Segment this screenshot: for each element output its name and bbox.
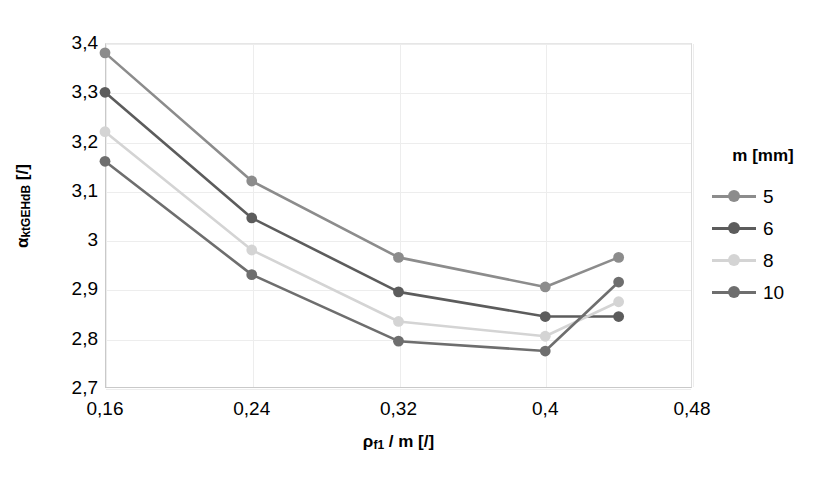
- legend-title: m [mm]: [700, 146, 826, 166]
- x-axis-title-symbol: ρ: [363, 432, 374, 451]
- data-point-10: [613, 277, 624, 288]
- series-layer: [105, 43, 692, 388]
- legend-marker-icon: [728, 190, 740, 202]
- legend-item-6[interactable]: 6: [700, 212, 826, 244]
- data-point-8: [393, 316, 404, 327]
- data-point-6: [393, 286, 404, 297]
- x-axis-title: ρf1 / m [/]: [105, 432, 692, 452]
- series-line-5: [105, 53, 619, 287]
- legend-item-5[interactable]: 5: [700, 180, 826, 212]
- gridline-horizontal: [106, 389, 691, 390]
- legend: m [mm] 56810: [700, 146, 826, 308]
- data-point-5: [393, 252, 404, 263]
- data-point-10: [540, 346, 551, 357]
- legend-key-swatch: [712, 221, 756, 235]
- y-axis-tick-label: 2,8: [38, 329, 98, 348]
- data-point-10: [393, 336, 404, 347]
- legend-item-label: 6: [763, 219, 774, 238]
- data-point-6: [613, 311, 624, 322]
- legend-item-label: 10: [763, 283, 784, 302]
- y-axis-title-unit: [/]: [13, 164, 32, 185]
- x-axis-tick-label: 0,4: [500, 398, 590, 419]
- gridline-vertical: [693, 44, 694, 387]
- legend-items: 56810: [700, 180, 826, 308]
- legend-item-8[interactable]: 8: [700, 244, 826, 276]
- y-axis-tick-label: 2,9: [38, 279, 98, 298]
- y-axis-tick-label: 3,3: [38, 82, 98, 101]
- data-point-8: [100, 126, 111, 137]
- data-point-8: [540, 331, 551, 342]
- data-point-10: [246, 269, 257, 280]
- x-axis-tick-label: 0,48: [647, 398, 737, 419]
- chart-root: 2,72,82,933,13,23,33,4 αktGEHdB [/] 0,16…: [0, 0, 834, 484]
- series-line-6: [105, 92, 619, 316]
- legend-marker-icon: [728, 254, 740, 266]
- data-point-8: [613, 296, 624, 307]
- y-axis-tick-label: 3,2: [38, 132, 98, 151]
- data-point-10: [100, 156, 111, 167]
- legend-marker-icon: [728, 222, 740, 234]
- data-point-6: [100, 87, 111, 98]
- y-axis-tick-label: 3,4: [38, 33, 98, 52]
- data-point-5: [100, 47, 111, 58]
- data-point-6: [246, 213, 257, 224]
- legend-key-swatch: [712, 253, 756, 267]
- legend-item-label: 8: [763, 251, 774, 270]
- data-point-5: [613, 252, 624, 263]
- legend-key-swatch: [712, 189, 756, 203]
- x-axis-title-subscript: f1: [373, 438, 384, 452]
- series-line-8: [105, 132, 619, 337]
- series-line-10: [105, 161, 619, 351]
- legend-marker-icon: [728, 286, 740, 298]
- y-axis-title-symbol: α: [13, 238, 32, 248]
- x-axis-title-unit: / m [/]: [384, 432, 434, 451]
- y-axis-tick-label: 3,1: [38, 181, 98, 200]
- legend-item-10[interactable]: 10: [700, 276, 826, 308]
- y-axis-tick-label: 3: [38, 230, 98, 249]
- data-point-5: [540, 282, 551, 293]
- y-axis-title: αktGEHdB [/]: [13, 121, 33, 291]
- legend-key-swatch: [712, 285, 756, 299]
- data-point-6: [540, 311, 551, 322]
- y-axis-tick-label: 2,7: [38, 378, 98, 397]
- data-point-5: [246, 176, 257, 187]
- x-axis-tick-label: 0,24: [207, 398, 297, 419]
- data-point-8: [246, 245, 257, 256]
- x-axis-tick-label: 0,32: [354, 398, 444, 419]
- x-axis-tick-label: 0,16: [60, 398, 150, 419]
- legend-item-label: 5: [763, 187, 774, 206]
- y-axis-title-subscript: ktGEHdB: [19, 185, 33, 238]
